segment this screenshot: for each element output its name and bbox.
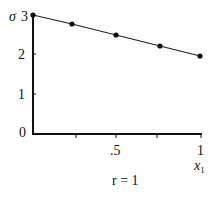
chart-caption: r = 1 [112,173,139,188]
y-tick-label-3: 3 [21,9,28,24]
data-point [69,21,74,26]
y-tick-label-2: 2 [18,47,25,62]
data-point [113,32,118,37]
chart-canvas: σ 3 2 1 0 .5 1 x1 r = 1 [0,0,218,199]
x-axis-label-sub: 1 [200,165,205,175]
y-tick-label-0: 0 [19,125,26,140]
x-tick-label-one: 1 [197,143,204,158]
data-point [197,53,202,58]
x-axis-label: x1 [193,158,205,175]
y-axis-label: σ [9,9,17,24]
data-point [157,43,162,48]
y-tick-label-1: 1 [18,87,25,102]
data-point [30,12,35,17]
x-tick-label-half: .5 [110,143,121,158]
